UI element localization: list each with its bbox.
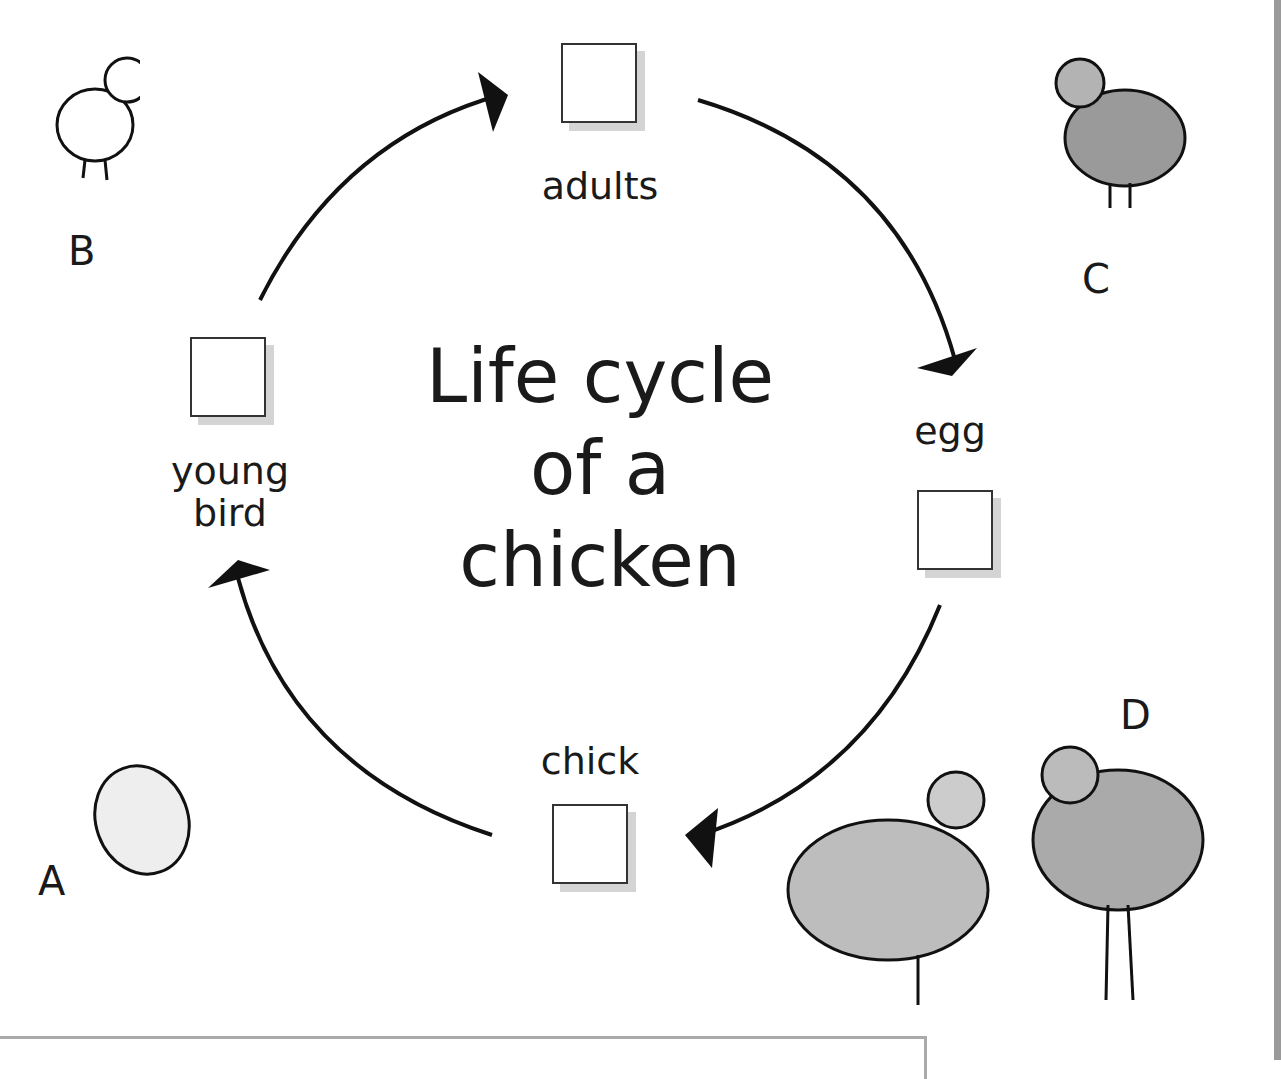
chick-label: chick (510, 740, 670, 782)
young-bird-label: young bird (150, 450, 310, 534)
title-line-3: chicken (400, 514, 800, 606)
egg-illustration-icon (90, 760, 200, 880)
chick-answer-box[interactable] (552, 804, 628, 884)
young-bird-illustration-icon (25, 50, 140, 190)
title-line-2: of a (400, 422, 800, 514)
adults-answer-box[interactable] (561, 43, 637, 123)
adults-label: adults (520, 165, 680, 207)
diagram-title: Life cycle of a chicken (400, 330, 800, 606)
egg-answer-box[interactable] (917, 490, 993, 570)
young-bird-line-1: young (150, 450, 310, 492)
letter-b: B (68, 228, 95, 274)
young-bird-line-2: bird (150, 492, 310, 534)
letter-a: A (38, 858, 65, 904)
hen-illustration-icon (1035, 28, 1205, 213)
letter-c: C (1082, 256, 1110, 302)
hen-and-rooster-illustration-icon (778, 730, 1263, 1020)
egg-label: egg (880, 410, 1020, 452)
title-line-1: Life cycle (400, 330, 800, 422)
young-bird-answer-box[interactable] (190, 337, 266, 417)
answer-text-box (0, 1036, 927, 1079)
